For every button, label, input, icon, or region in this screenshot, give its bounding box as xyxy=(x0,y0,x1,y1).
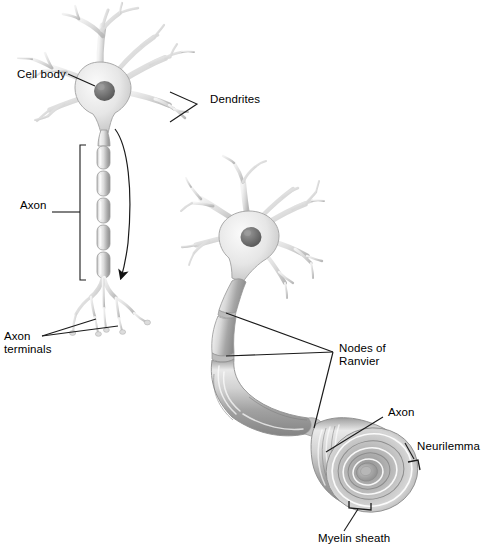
label-nodes-of-ranvier: Nodes of Ranvier xyxy=(339,342,386,367)
neuron-diagram: Cell body Dendrites Axon Axon terminals … xyxy=(0,0,487,554)
cutaway-myelin-cylinder xyxy=(311,418,426,521)
label-cell-body: Cell body xyxy=(17,68,66,81)
diagram-artwork xyxy=(0,0,487,554)
label-neurilemma: Neurilemma xyxy=(417,440,480,453)
left-nucleus-highlight xyxy=(97,84,104,90)
label-axon-left: Axon xyxy=(20,199,47,212)
myelinated-axon xyxy=(211,279,322,436)
left-neuron xyxy=(18,3,197,336)
right-neuron-nucleus xyxy=(241,227,262,247)
left-neuron-axon-segments xyxy=(97,130,110,278)
left-neuron-nucleus xyxy=(94,81,115,101)
right-nucleus-highlight xyxy=(244,230,251,236)
axon-bracket xyxy=(80,145,86,280)
internode-3 xyxy=(211,359,311,436)
label-dendrites: Dendrites xyxy=(210,93,260,106)
internode-2 xyxy=(212,316,236,356)
axon-terminals-leader-lines xyxy=(42,319,118,336)
label-axon-terminals: Axon terminals xyxy=(4,330,52,355)
label-axon-right: Axon xyxy=(388,406,415,419)
left-neuron-axon-terminals xyxy=(73,278,146,333)
impulse-direction-arrow xyxy=(115,129,130,278)
left-terminal-boutons xyxy=(70,320,151,336)
right-neuron xyxy=(181,156,426,531)
label-myelin-sheath: Myelin sheath xyxy=(318,532,390,545)
internode-1 xyxy=(219,279,246,313)
myelin-sheath-leader-line xyxy=(344,509,358,531)
